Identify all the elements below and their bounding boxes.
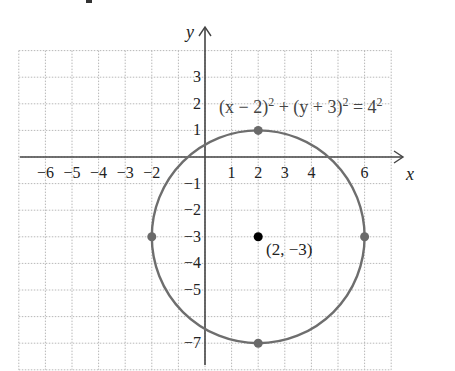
eq-plus: + xyxy=(274,97,293,117)
circle-point xyxy=(254,339,263,348)
circle-equation: (x − 2)2 + (y + 3)2 = 42 xyxy=(219,95,383,118)
y-tick-label: −2 xyxy=(184,201,201,218)
circle-graph-figure: x y −6−5−4−3−212346321−1−2−3−4−5−7 (2, −… xyxy=(0,0,455,371)
cropped-text-fragment xyxy=(86,0,92,3)
y-axis-label: y xyxy=(184,22,194,42)
y-tick-label: −7 xyxy=(184,334,201,351)
eq-x-term: (x − 2) xyxy=(219,97,268,118)
eq-rhs: = 4 xyxy=(348,97,376,117)
y-tick-label: 2 xyxy=(193,95,201,112)
y-tick-label: −3 xyxy=(184,228,201,245)
y-tick-label: −4 xyxy=(184,254,201,271)
x-tick-label: 6 xyxy=(361,164,369,181)
circle-point xyxy=(147,232,156,241)
center-label: (2, −3) xyxy=(266,240,312,259)
coordinate-plane: x y −6−5−4−3−212346321−1−2−3−4−5−7 (2, −… xyxy=(0,0,455,371)
y-tick-label: 1 xyxy=(193,121,201,138)
x-tick-label: −4 xyxy=(90,164,107,181)
x-tick-label: −3 xyxy=(117,164,134,181)
eq-y-term: (y + 3) xyxy=(293,97,342,118)
circle-point xyxy=(360,232,369,241)
x-tick-label: −2 xyxy=(143,164,160,181)
center-point xyxy=(254,232,263,241)
x-tick-label: 4 xyxy=(307,164,315,181)
x-tick-label: −5 xyxy=(63,164,80,181)
x-axis-label: x xyxy=(405,164,414,184)
y-tick-label: −5 xyxy=(184,281,201,298)
x-tick-label: −6 xyxy=(37,164,54,181)
circle-point xyxy=(254,126,263,135)
x-tick-label: 1 xyxy=(228,164,236,181)
x-tick-label: 2 xyxy=(254,164,262,181)
eq-sup-3: 2 xyxy=(377,95,383,109)
y-tick-label: −1 xyxy=(184,175,201,192)
x-tick-label: 3 xyxy=(281,164,289,181)
y-tick-label: 3 xyxy=(193,68,201,85)
